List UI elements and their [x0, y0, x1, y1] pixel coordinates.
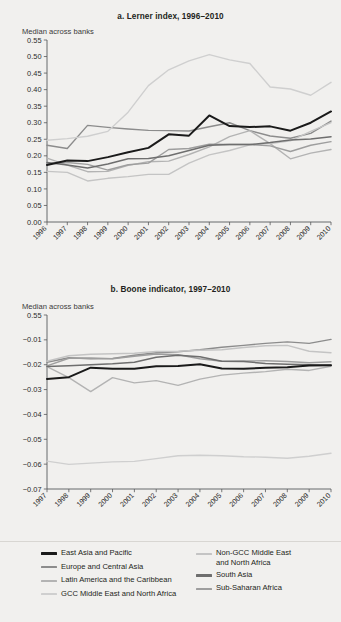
legend-item[interactable]: Sub-Saharan Africa	[196, 583, 291, 594]
x-tick-label: 1999	[74, 491, 92, 509]
x-tick-label: 1998	[71, 224, 89, 242]
legend-swatch-icon	[196, 588, 212, 590]
panel-boone-indicator: b. Boone indicator, 1997–2010 Median acr…	[0, 282, 341, 537]
x-tick-label: 2000	[112, 224, 130, 242]
y-tick-label: 0.35	[27, 102, 41, 111]
x-tick-label: 2008	[274, 224, 292, 242]
legend-item[interactable]: Non-GCC Middle East and North Africa	[196, 548, 291, 567]
y-tick-label: 0.55	[27, 311, 41, 320]
legend-swatch-icon	[41, 593, 57, 595]
legend-item[interactable]: Europe and Central Asia	[41, 562, 176, 573]
series-line	[47, 55, 331, 141]
x-tick-label: 1998	[53, 491, 71, 509]
x-tick-label: 2007	[249, 491, 267, 509]
y-tick-label: 0.50	[27, 52, 41, 61]
x-tick-label: 2007	[254, 224, 272, 242]
legend-column-left: East Asia and PacificEurope and Central …	[41, 548, 176, 602]
x-tick-label: 2006	[234, 224, 252, 242]
y-tick-label: −0.01	[23, 335, 42, 344]
x-tick-label: 2005	[213, 224, 231, 242]
y-tick-label: 0.55	[27, 36, 41, 45]
y-tick-label: 0.00	[27, 218, 41, 227]
legend-item[interactable]: East Asia and Pacific	[41, 548, 176, 559]
series-line	[47, 366, 331, 391]
legend-item[interactable]: South Asia	[196, 570, 291, 581]
x-tick-label: 1999	[92, 224, 110, 242]
series-line	[47, 364, 331, 379]
legend-item-label: Non-GCC Middle East and North Africa	[216, 548, 291, 567]
y-tick-label: −0.07	[23, 485, 42, 494]
x-tick-label: 2004	[193, 224, 211, 242]
legend-item-label: Latin America and the Caribbean	[61, 575, 172, 585]
x-tick-label: 1997	[51, 224, 69, 242]
y-tick-label: 0.20	[27, 151, 41, 160]
y-tick-label: −0.05	[23, 435, 42, 444]
y-tick-label: 0.45	[27, 69, 41, 78]
y-tick-label: 0.15	[27, 168, 41, 177]
legend-swatch-icon	[196, 553, 212, 555]
x-tick-label: 2009	[293, 491, 311, 509]
x-tick-label: 2009	[294, 224, 312, 242]
panel-a-plot: 0.000.050.100.150.200.250.300.350.400.45…	[0, 0, 341, 270]
x-tick-label: 2006	[227, 491, 245, 509]
y-tick-label: −0.03	[23, 385, 42, 394]
y-tick-label: −0.02	[23, 360, 42, 369]
chart-legend: East Asia and PacificEurope and Central …	[0, 541, 341, 614]
panel-b-plot: −0.07−0.06−0.05−0.04−0.03−0.02−0.010.551…	[0, 282, 341, 537]
legend-swatch-icon	[196, 574, 212, 577]
x-tick-label: 2000	[96, 491, 114, 509]
legend-column-right: Non-GCC Middle East and North AfricaSout…	[196, 548, 291, 597]
x-tick-label: 2002	[152, 224, 170, 242]
boone-indicator-chart: −0.07−0.06−0.05−0.04−0.03−0.02−0.010.551…	[0, 282, 341, 537]
legend-item-label: Europe and Central Asia	[61, 562, 143, 572]
series-line	[47, 453, 331, 464]
legend-item-label: South Asia	[216, 570, 252, 580]
legend-item[interactable]: GCC Middle East and North Africa	[41, 589, 176, 600]
legend-swatch-icon	[41, 566, 57, 568]
y-tick-label: 0.10	[27, 185, 41, 194]
x-tick-label: 2005	[206, 491, 224, 509]
x-tick-label: 2003	[162, 491, 180, 509]
legend-item[interactable]: Latin America and the Caribbean	[41, 575, 176, 586]
x-tick-label: 2004	[184, 491, 202, 509]
x-tick-label: 2001	[132, 224, 150, 242]
y-tick-label: −0.04	[23, 410, 42, 419]
legend-item-label: GCC Middle East and North Africa	[61, 589, 176, 599]
y-tick-label: −0.06	[23, 460, 42, 469]
x-tick-label: 2001	[118, 491, 136, 509]
legend-item-label: East Asia and Pacific	[61, 548, 132, 558]
lerner-index-chart: 0.000.050.100.150.200.250.300.350.400.45…	[0, 0, 341, 270]
x-tick-label: 2003	[173, 224, 191, 242]
y-tick-label: 0.30	[27, 118, 41, 127]
legend-swatch-icon	[41, 552, 57, 555]
x-tick-label: 2008	[271, 491, 289, 509]
y-tick-label: 0.25	[27, 135, 41, 144]
x-tick-label: 1997	[31, 491, 49, 509]
x-tick-label: 2002	[140, 491, 158, 509]
y-tick-label: 0.05	[27, 201, 41, 210]
y-tick-label: 0.40	[27, 85, 41, 94]
legend-item-label: Sub-Saharan Africa	[216, 583, 282, 593]
x-tick-label: 2010	[315, 224, 333, 242]
series-line	[47, 142, 331, 170]
legend-swatch-icon	[41, 580, 57, 582]
x-tick-label: 2010	[315, 491, 333, 509]
panel-lerner-index: a. Lerner index, 1996–2010 Median across…	[0, 0, 341, 270]
x-tick-label: 1996	[31, 224, 49, 242]
